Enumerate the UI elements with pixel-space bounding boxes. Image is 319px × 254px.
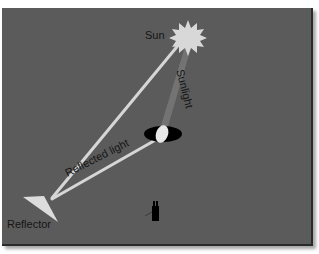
reflector-label: Reflector	[7, 218, 51, 230]
sun-label: Sun	[145, 29, 165, 41]
observer-figure-icon	[145, 201, 159, 221]
